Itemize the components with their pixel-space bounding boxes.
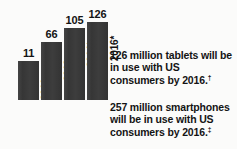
bar-value-label: 66 <box>46 29 58 40</box>
callout-panel: 126 million tablets will be in use with … <box>110 0 237 149</box>
callout-tablets: 126 million tablets will be in use with … <box>110 49 237 87</box>
bar-group: 126 2016* <box>87 9 108 100</box>
callout-tablets-text: 126 million tablets will be in use with … <box>110 49 232 86</box>
bar-value-label: 126 <box>89 9 107 20</box>
callout-smartphones-footnote-marker: ‡ <box>208 125 211 132</box>
bar-group: 11 2010 <box>18 48 39 100</box>
callout-tablets-footnote-marker: † <box>208 73 211 80</box>
bar-chart: 11 2010 66 2012 105 2014* <box>0 0 112 149</box>
bar-axis-label: 2016* <box>87 61 108 107</box>
bar-group: 66 2012 <box>41 29 62 100</box>
bar-value-label: 105 <box>66 15 84 26</box>
bar-axis-label: 2012 <box>41 81 62 127</box>
infographic-root: 11 2010 66 2012 105 2014* <box>0 0 237 149</box>
bar-axis-label: 2010 <box>18 100 39 146</box>
bar-axis-label: 2014* <box>64 67 85 113</box>
callout-smartphones: 257 million smartphones will be in use w… <box>110 101 237 139</box>
bar-group: 105 2014* <box>64 15 85 100</box>
callout-smartphones-text: 257 million smartphones will be in use w… <box>110 101 230 138</box>
bar-value-label: 11 <box>23 48 34 59</box>
